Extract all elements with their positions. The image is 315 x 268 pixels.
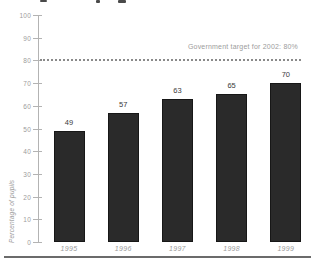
cropped-title-fragment	[40, 0, 47, 2]
x-category-label: 1996	[103, 245, 143, 253]
y-tick	[33, 15, 42, 16]
y-tick-label: 20	[0, 194, 31, 201]
y-tick	[33, 174, 42, 175]
bar	[54, 131, 85, 242]
x-category-label: 1997	[157, 245, 197, 253]
target-line-label: Government target for 2002: 80%	[188, 43, 298, 51]
y-tick	[33, 219, 42, 220]
bar	[216, 94, 247, 242]
x-category-label: 1998	[212, 245, 252, 253]
y-tick-label: 80	[0, 57, 31, 64]
bar	[108, 113, 139, 242]
x-category-label: 1995	[49, 245, 89, 253]
y-tick-label: 50	[0, 126, 31, 133]
y-tick	[33, 38, 42, 39]
bar-value-label: 65	[217, 82, 247, 90]
bar-chart: 0102030405060708090100 Percentage of pup…	[0, 0, 315, 268]
bar-value-label: 49	[54, 119, 84, 127]
y-tick-label: 100	[0, 12, 31, 19]
x-category-label: 1999	[266, 245, 306, 253]
y-tick-label: 70	[0, 80, 31, 87]
cropped-title-fragment	[96, 0, 100, 3]
bottom-rule	[4, 256, 311, 258]
cropped-title-fragment	[118, 0, 126, 3]
y-tick-label: 90	[0, 35, 31, 42]
y-tick	[33, 151, 42, 152]
bar	[162, 99, 193, 242]
bar-value-label: 57	[108, 101, 138, 109]
y-tick	[33, 106, 42, 107]
y-tick-label: 40	[0, 148, 31, 155]
y-axis-title: Percentage of pupils	[8, 163, 15, 243]
y-tick-label: 30	[0, 171, 31, 178]
y-tick	[33, 197, 42, 198]
y-tick-label: 10	[0, 216, 31, 223]
bar-value-label: 63	[162, 87, 192, 95]
y-tick	[33, 83, 42, 84]
y-tick-label: 0	[0, 239, 31, 246]
target-line	[40, 59, 301, 61]
bar	[270, 83, 301, 242]
y-tick	[33, 129, 42, 130]
bar-value-label: 70	[271, 71, 301, 79]
y-tick-label: 60	[0, 103, 31, 110]
y-tick	[33, 242, 42, 243]
